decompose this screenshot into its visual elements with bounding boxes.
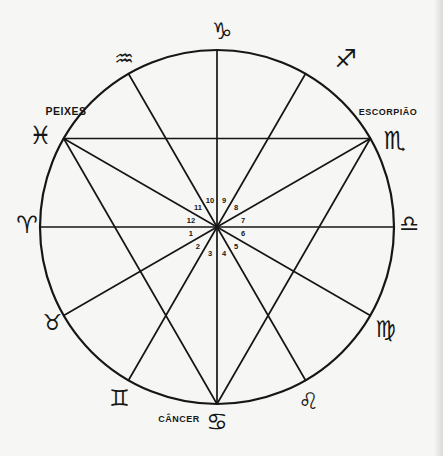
- house-number-2: 2: [196, 242, 200, 251]
- sign-symbol-aries: ♈: [16, 211, 38, 239]
- sign-symbol-pisces: ♓: [29, 121, 51, 150]
- sign-symbol-taurus: ♉: [43, 310, 63, 335]
- house-number-9: 9: [222, 196, 226, 205]
- sign-label-scorpio: ESCORPIÃO: [359, 107, 418, 117]
- house-number-8: 8: [234, 203, 238, 212]
- house-number-10: 10: [206, 196, 214, 205]
- sign-label-pisces: PEIXES: [46, 105, 87, 117]
- sign-symbol-cancer: ♋: [206, 408, 228, 436]
- house-number-6: 6: [241, 229, 245, 238]
- zodiac-wheel-diagram: ♈♉♊♋CÂNCER♌♍♎♏ESCORPIÃO♐♑♒♓PEIXES1234567…: [0, 0, 443, 456]
- sign-symbol-capricorn: ♑: [212, 18, 233, 44]
- sign-symbol-scorpio: ♏: [383, 126, 405, 155]
- sign-label-cancer: CÂNCER: [158, 413, 200, 424]
- sign-symbol-libra: ♎: [399, 211, 419, 236]
- house-number-1: 1: [189, 229, 193, 238]
- house-number-3: 3: [208, 249, 212, 258]
- paper-background: [0, 0, 443, 456]
- house-number-12: 12: [187, 216, 195, 225]
- sign-symbol-gemini: ♊: [109, 385, 130, 411]
- sign-symbol-leo: ♌: [298, 388, 319, 414]
- scanned-astrology-page: ♈♉♊♋CÂNCER♌♍♎♏ESCORPIÃO♐♑♒♓PEIXES1234567…: [0, 0, 443, 456]
- house-number-11: 11: [194, 203, 202, 212]
- house-number-5: 5: [234, 242, 238, 251]
- sign-symbol-sagittarius: ♐: [335, 44, 357, 73]
- sign-symbol-virgo: ♍: [375, 316, 396, 342]
- house-number-7: 7: [241, 216, 245, 225]
- sign-symbol-aquarius: ♒: [114, 46, 134, 71]
